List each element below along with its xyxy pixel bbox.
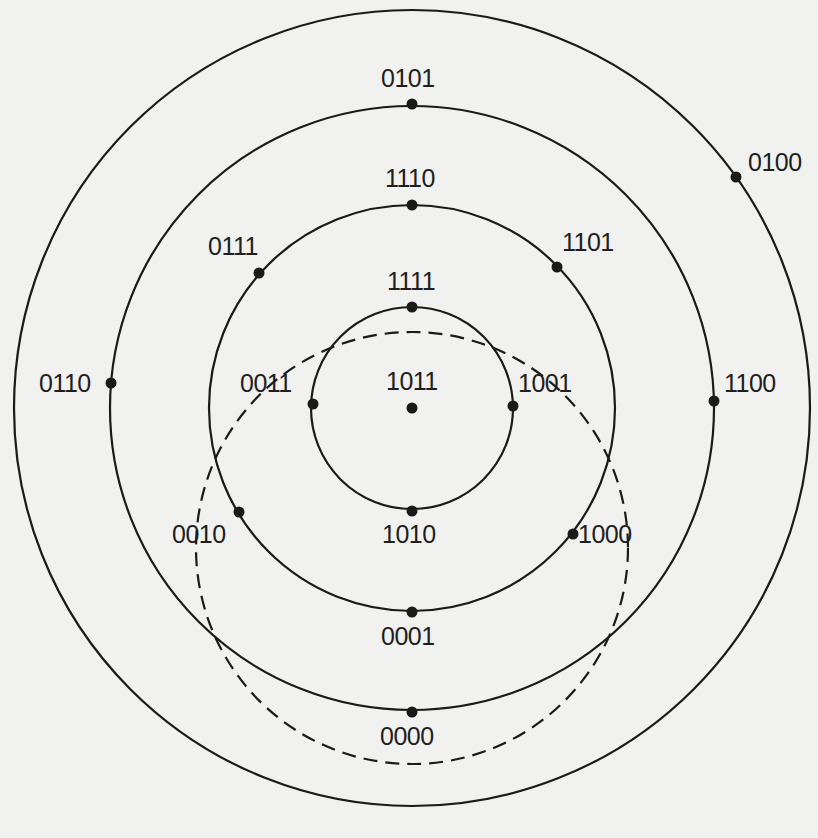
node-label-0100: 0100 — [748, 150, 802, 175]
node-dot-0001 — [407, 607, 418, 618]
node-label-1001: 1001 — [518, 371, 572, 396]
node-dot-0110 — [106, 378, 117, 389]
node-dot-1110 — [407, 200, 418, 211]
node-label-1101: 1101 — [562, 230, 614, 255]
node-dot-1010 — [407, 506, 418, 517]
node-label-1100: 1100 — [724, 371, 776, 396]
node-label-0011: 0011 — [240, 371, 292, 396]
node-dot-1001 — [508, 401, 519, 412]
node-label-0000: 0000 — [380, 724, 434, 749]
node-label-0101: 0101 — [381, 66, 435, 91]
node-label-0001: 0001 — [381, 624, 435, 649]
node-dot-0000 — [407, 707, 418, 718]
node-dot-1111 — [407, 302, 418, 313]
node-dot-0010 — [234, 507, 245, 518]
node-dot-1101 — [552, 262, 563, 273]
node-label-0110: 0110 — [39, 371, 91, 396]
node-dot-0011 — [308, 399, 319, 410]
node-label-1111: 1111 — [387, 269, 435, 294]
node-dot-1000 — [568, 529, 579, 540]
node-dot-0101 — [407, 99, 418, 110]
node-label-1000: 1000 — [578, 522, 632, 547]
concentric-code-diagram — [0, 0, 818, 838]
node-label-1110: 1110 — [385, 166, 435, 191]
node-label-0111: 0111 — [208, 234, 258, 259]
node-label-1010: 1010 — [382, 522, 436, 547]
node-dot-0100 — [731, 172, 742, 183]
node-dot-0111 — [254, 268, 265, 279]
node-label-0010: 0010 — [172, 522, 226, 547]
node-dot-1011 — [407, 403, 418, 414]
node-dot-1100 — [709, 396, 720, 407]
node-label-1011: 1011 — [386, 369, 438, 394]
